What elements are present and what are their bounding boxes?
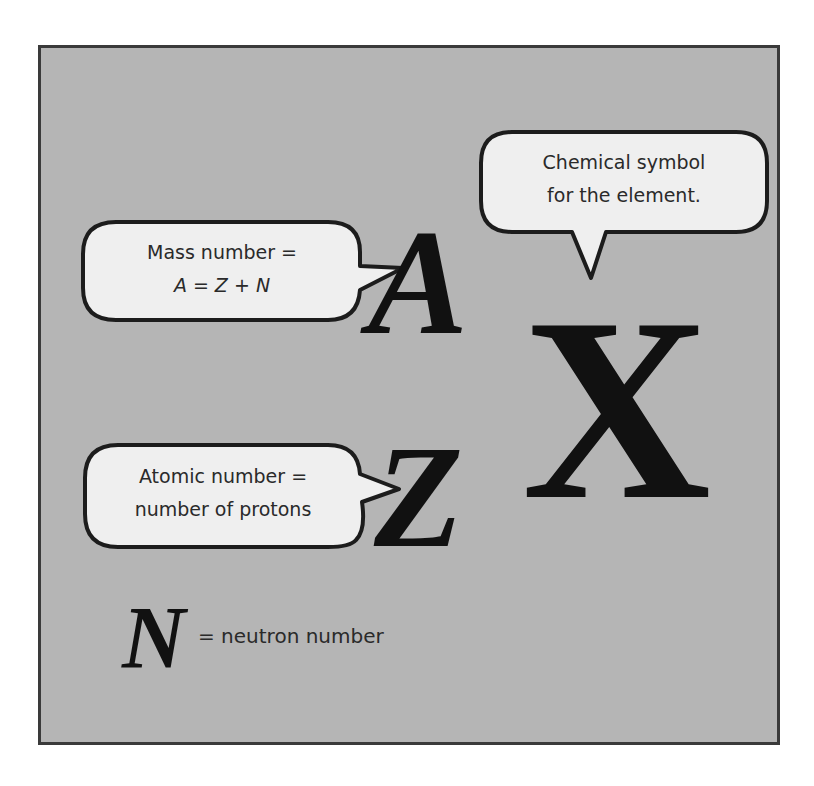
neutron-number-label: = neutron number (198, 624, 384, 648)
atomic-number-line1: Atomic number = (88, 460, 358, 493)
element-symbol: X (522, 278, 711, 540)
chemical-symbol-line2: for the element. (484, 179, 764, 212)
atomic-number-line2: number of protons (88, 493, 358, 526)
mass-number-callout: Mass number = A = Z + N (86, 236, 358, 302)
chemical-symbol-line1: Chemical symbol (484, 146, 764, 179)
mass-number-symbol: A (368, 207, 468, 357)
atomic-number-symbol: Z (374, 424, 463, 570)
mass-number-line1: Mass number = (86, 236, 358, 269)
mass-number-formula: A = Z + N (86, 269, 358, 302)
neutron-number-symbol: N (122, 594, 186, 682)
chemical-symbol-callout: Chemical symbol for the element. (484, 146, 764, 212)
atomic-number-callout: Atomic number = number of protons (88, 460, 358, 526)
